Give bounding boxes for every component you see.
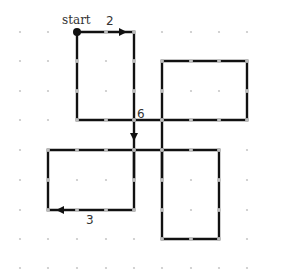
grid-dot bbox=[161, 267, 163, 269]
grid-dot bbox=[133, 238, 135, 240]
path-vertex bbox=[132, 59, 136, 63]
grid-dot bbox=[19, 90, 21, 92]
path-vertex bbox=[46, 178, 50, 182]
grid-dot bbox=[47, 238, 49, 240]
arrow-left-icon bbox=[56, 206, 64, 214]
arrow-right-icon bbox=[119, 28, 127, 36]
path-vertex bbox=[104, 148, 108, 152]
path-vertex bbox=[132, 118, 136, 122]
grid-dot bbox=[190, 90, 192, 92]
grid-dot bbox=[133, 267, 135, 269]
grid-dot bbox=[218, 267, 220, 269]
path-dots bbox=[46, 30, 249, 241]
path-vertex bbox=[75, 148, 79, 152]
grid-dot bbox=[47, 31, 49, 33]
path-vertex bbox=[104, 118, 108, 122]
grid-dot bbox=[19, 60, 21, 62]
grid-dot bbox=[190, 209, 192, 211]
path-vertex bbox=[217, 148, 221, 152]
grid-dot bbox=[218, 90, 220, 92]
path-vertex bbox=[160, 178, 164, 182]
grid-dot bbox=[161, 31, 163, 33]
path-vertex bbox=[189, 59, 193, 63]
path-vertex bbox=[75, 208, 79, 212]
grid-dot bbox=[19, 238, 21, 240]
grid-dot bbox=[246, 209, 248, 211]
grid-dot bbox=[47, 90, 49, 92]
path-vertex bbox=[217, 237, 221, 241]
step-label-2: 2 bbox=[106, 15, 114, 27]
path-vertex bbox=[160, 118, 164, 122]
path-vertex bbox=[245, 59, 249, 63]
start-label: start bbox=[62, 14, 91, 26]
step-label-3: 3 bbox=[86, 214, 94, 226]
path-vertex bbox=[189, 148, 193, 152]
arrow-down-icon bbox=[130, 133, 138, 141]
grid-dot bbox=[105, 179, 107, 181]
grid-dot bbox=[190, 31, 192, 33]
path-vertex bbox=[132, 208, 136, 212]
path-vertex bbox=[75, 59, 79, 63]
path-vertex bbox=[160, 148, 164, 152]
grid-dot bbox=[76, 179, 78, 181]
grid-dot bbox=[19, 179, 21, 181]
grid-dot bbox=[190, 179, 192, 181]
grid-dot bbox=[246, 179, 248, 181]
path-vertex bbox=[46, 208, 50, 212]
path-lines bbox=[48, 32, 247, 239]
grid-dot bbox=[105, 238, 107, 240]
path-vertex bbox=[104, 208, 108, 212]
path-vertex bbox=[104, 30, 108, 34]
path-vertex bbox=[160, 89, 164, 93]
grid-dot bbox=[47, 267, 49, 269]
grid-dot bbox=[19, 209, 21, 211]
grid-dot bbox=[105, 60, 107, 62]
grid-dot bbox=[19, 119, 21, 121]
path-vertex bbox=[217, 208, 221, 212]
path-vertex bbox=[132, 178, 136, 182]
path-vertex bbox=[75, 118, 79, 122]
grid-dot bbox=[190, 267, 192, 269]
path-vertex bbox=[160, 59, 164, 63]
start-point-marker bbox=[73, 28, 81, 36]
step-label-6: 6 bbox=[137, 108, 145, 120]
path-vertex bbox=[189, 118, 193, 122]
grid-dot bbox=[19, 267, 21, 269]
grid-dot bbox=[218, 31, 220, 33]
path-vertex bbox=[245, 118, 249, 122]
grid-dot bbox=[76, 267, 78, 269]
grid-dot bbox=[246, 31, 248, 33]
grid-dot bbox=[76, 238, 78, 240]
path-vertex bbox=[132, 148, 136, 152]
grid-dot bbox=[47, 119, 49, 121]
path-vertex bbox=[160, 208, 164, 212]
grid-path-diagram bbox=[0, 0, 288, 280]
path-vertex bbox=[189, 237, 193, 241]
path-vertex bbox=[245, 89, 249, 93]
grid-dot bbox=[246, 149, 248, 151]
grid-dot bbox=[105, 90, 107, 92]
path-vertex bbox=[217, 118, 221, 122]
grid-dot bbox=[246, 238, 248, 240]
path-vertex bbox=[46, 148, 50, 152]
grid-dot bbox=[19, 31, 21, 33]
path-vertex bbox=[75, 89, 79, 93]
path-vertex bbox=[217, 59, 221, 63]
grid-dot bbox=[47, 60, 49, 62]
grid-dot bbox=[246, 267, 248, 269]
path-vertex bbox=[132, 30, 136, 34]
grid-dot bbox=[19, 149, 21, 151]
grid-dot bbox=[105, 267, 107, 269]
path-vertex bbox=[132, 89, 136, 93]
path-vertex bbox=[160, 237, 164, 241]
path-vertex bbox=[217, 178, 221, 182]
